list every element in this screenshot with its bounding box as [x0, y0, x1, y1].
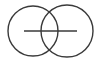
overlapping-circles-diagram [0, 0, 101, 62]
